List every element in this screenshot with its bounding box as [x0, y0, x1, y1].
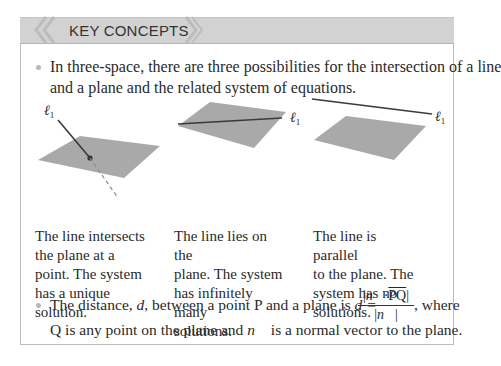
distance-suffix: , where	[414, 295, 460, 315]
intersecting-plane-diagram	[30, 110, 170, 220]
intro-line-2: and a plane and the related system of eq…	[50, 78, 356, 98]
line-label: ℓ1	[290, 108, 300, 132]
fraction-numerator: |n⃗·PQ|	[358, 287, 414, 306]
chevron-right-icon	[182, 17, 212, 44]
distance-line-2: Q is any point on the plane and n⃗ is a …	[50, 320, 462, 340]
distance-formula-fraction: |n⃗·PQ| |n⃗|	[358, 287, 414, 323]
bullet-icon	[36, 65, 41, 70]
line-label: ℓ1	[435, 107, 445, 131]
section-title: KEY CONCEPTS	[69, 22, 189, 39]
in-plane-diagram	[170, 100, 300, 160]
chevron-left-double-icon	[28, 17, 68, 44]
distance-line-1: The distance, d, between a point P and a…	[50, 295, 377, 315]
key-concepts-header: KEY CONCEPTS	[20, 17, 454, 44]
parallel-plane-diagram	[310, 96, 450, 216]
bullet-icon	[36, 303, 41, 308]
intro-line-1: In three-space, there are three possibil…	[50, 57, 501, 77]
